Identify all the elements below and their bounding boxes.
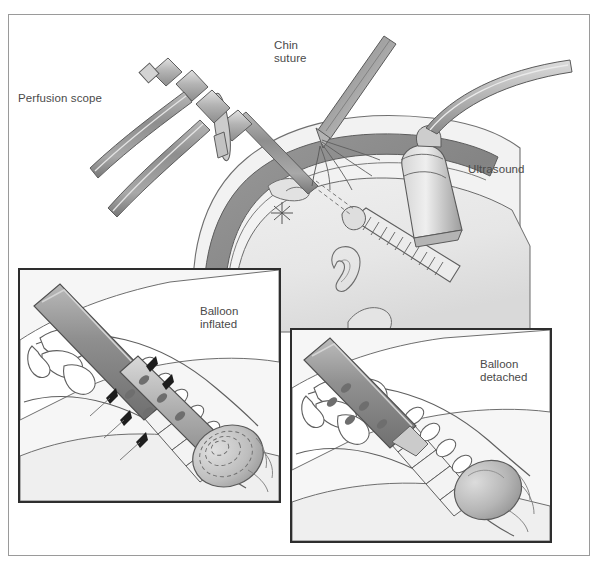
inset-balloon-inflated: Balloon inflated <box>18 268 281 503</box>
label-perfusion-scope: Perfusion scope <box>18 92 102 105</box>
irrigation-tube-lower <box>108 120 210 217</box>
inset-balloon-detached: Balloon detached <box>290 328 552 543</box>
label-ultrasound: Ultrasound <box>468 163 525 176</box>
label-chin-suture: Chin suture <box>274 39 307 64</box>
inset-inflated-illustration <box>20 270 279 501</box>
inset-label-balloon-detached: Balloon detached <box>480 358 527 383</box>
larynx <box>342 207 365 230</box>
illustration-figure: Perfusion scope Chin suture Ultrasound <box>0 0 598 569</box>
irrigation-tube-upper <box>90 92 192 178</box>
scope-cap <box>139 63 159 83</box>
inset-label-balloon-inflated: Balloon inflated <box>200 305 238 330</box>
ultrasound-cable <box>426 60 572 134</box>
